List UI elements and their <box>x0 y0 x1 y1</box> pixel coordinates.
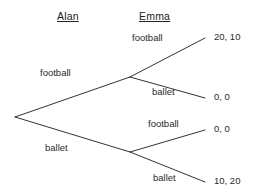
edge-emma-lower-football <box>130 130 205 152</box>
payoff-ballet-ballet: 10, 20 <box>214 175 240 186</box>
edge-alan-ballet <box>15 117 130 152</box>
game-tree-figure: Alan Emma football ballet football balle… <box>0 0 261 194</box>
edge-label-alan-ballet: ballet <box>45 142 68 153</box>
payoff-ballet-football: 0, 0 <box>214 123 230 134</box>
player-header-alan: Alan <box>57 10 79 22</box>
edge-alan-football <box>15 77 130 117</box>
edge-emma-upper-football <box>130 38 205 77</box>
edge-label-emma-lower-football: football <box>148 118 179 129</box>
player-header-emma: Emma <box>139 10 170 22</box>
edge-label-alan-football: football <box>40 67 71 78</box>
edge-label-emma-lower-ballet: ballet <box>153 172 176 183</box>
edge-label-emma-upper-football: football <box>132 32 163 43</box>
payoff-football-ballet: 0, 0 <box>214 91 230 102</box>
payoff-football-football: 20, 10 <box>214 31 240 42</box>
edge-label-emma-upper-ballet: ballet <box>152 86 175 97</box>
